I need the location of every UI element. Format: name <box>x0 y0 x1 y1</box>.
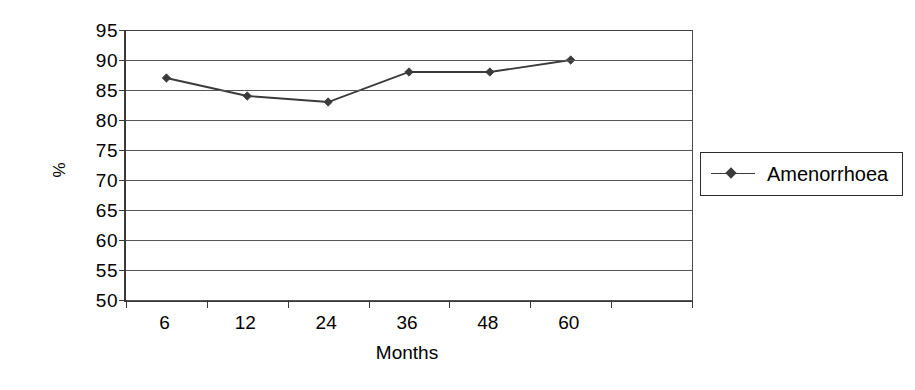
x-axis-tick-labels: 61224364860 <box>124 312 690 338</box>
x-axis-tick <box>530 300 531 308</box>
data-point-marker <box>243 92 251 100</box>
y-axis-tick-label: 70 <box>70 171 118 190</box>
y-axis-tick <box>119 150 126 151</box>
data-point-marker <box>324 98 332 106</box>
x-axis-tick <box>611 300 612 308</box>
x-axis-tick-label: 48 <box>453 312 523 334</box>
legend-marker-icon <box>711 167 755 181</box>
chart-container: % 50556065707580859095 61224364860 Month… <box>0 0 915 390</box>
gridline <box>126 300 692 301</box>
y-axis-tick-label: 65 <box>70 201 118 220</box>
gridline <box>126 60 692 61</box>
gridline <box>126 210 692 211</box>
y-axis-tick <box>119 180 126 181</box>
y-axis-tick <box>119 120 126 121</box>
x-axis-tick <box>207 300 208 308</box>
y-axis-tick-label: 60 <box>70 231 118 250</box>
chart-legend: Amenorrhoea <box>700 152 903 196</box>
y-axis-tick <box>119 210 126 211</box>
y-axis-tick-label: 75 <box>70 141 118 160</box>
y-axis-tick-label: 50 <box>70 291 118 310</box>
gridline <box>126 30 692 31</box>
x-axis-tick-label: 60 <box>534 312 604 334</box>
plot-area <box>124 30 693 302</box>
gridline <box>126 120 692 121</box>
x-axis-tick-label: 6 <box>129 312 199 334</box>
y-axis-tick-label: 55 <box>70 261 118 280</box>
x-axis-tick-label: 36 <box>372 312 442 334</box>
y-axis-tick-labels: 50556065707580859095 <box>70 30 118 300</box>
data-point-marker <box>405 68 413 76</box>
x-axis-tick <box>126 300 127 308</box>
series-amenorrhoea <box>126 30 692 300</box>
gridline <box>126 270 692 271</box>
series-markers-amenorrhoea <box>162 56 575 106</box>
x-axis-tick-label: 24 <box>291 312 361 334</box>
x-axis-tick <box>692 300 693 308</box>
gridline <box>126 180 692 181</box>
y-axis-tick <box>119 90 126 91</box>
x-axis-tick-label: 12 <box>210 312 280 334</box>
y-axis-tick-label: 80 <box>70 111 118 130</box>
gridline <box>126 240 692 241</box>
x-axis-tick <box>369 300 370 308</box>
y-axis-tick-label: 90 <box>70 51 118 70</box>
x-axis-tick <box>288 300 289 308</box>
y-axis-tick <box>119 300 126 301</box>
y-axis-tick-label: 85 <box>70 81 118 100</box>
y-axis-tick <box>119 60 126 61</box>
x-axis-tick <box>449 300 450 308</box>
gridline <box>126 90 692 91</box>
x-axis-title: Months <box>124 342 690 364</box>
y-axis-tick <box>119 30 126 31</box>
y-axis-tick <box>119 270 126 271</box>
series-line-amenorrhoea <box>166 60 570 102</box>
gridline <box>126 150 692 151</box>
data-point-marker <box>486 68 494 76</box>
legend-item-label: Amenorrhoea <box>767 164 888 184</box>
y-axis-tick-label: 95 <box>70 21 118 40</box>
data-point-marker <box>162 74 170 82</box>
y-axis-tick <box>119 240 126 241</box>
